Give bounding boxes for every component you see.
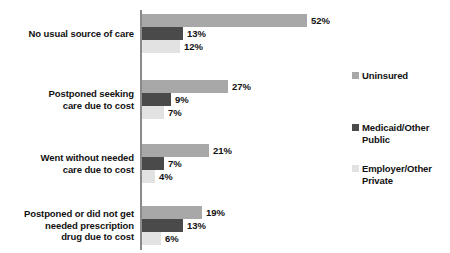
category-label-line: No usual source of care (0, 28, 134, 40)
category-label: Postponed or did not getneeded prescript… (0, 208, 134, 243)
legend-label: Medicaid/Other Public (362, 122, 450, 145)
category-label: Went without neededcare due to cost (0, 152, 134, 175)
legend-item[interactable]: Medicaid/Other Public (352, 122, 450, 145)
bar[interactable] (142, 106, 164, 119)
category-label-line: Postponed or did not get (0, 208, 134, 220)
bar[interactable] (142, 14, 307, 27)
bar-value-label: 19% (206, 207, 225, 219)
category-label-line: Postponed seeking (0, 88, 134, 100)
category-label-line: care due to cost (0, 164, 134, 176)
category-label-line: needed prescription (0, 220, 134, 232)
bar-value-label: 27% (232, 81, 251, 93)
legend-item[interactable]: Uninsured (352, 70, 450, 82)
chart-legend: UninsuredMedicaid/Other PublicEmployer/O… (352, 0, 450, 253)
legend-label: Uninsured (362, 70, 408, 82)
plot-area: No usual source of care52%13%12%Postpone… (0, 0, 340, 253)
category-label: Postponed seekingcare due to cost (0, 88, 134, 111)
bar-value-label: 12% (184, 41, 203, 53)
legend-label: Employer/Other Private (362, 163, 450, 186)
bar[interactable] (142, 232, 161, 245)
bar[interactable] (142, 40, 180, 53)
bar[interactable] (142, 219, 183, 232)
bar-chart: No usual source of care52%13%12%Postpone… (0, 0, 450, 253)
bar-value-label: 7% (168, 158, 182, 170)
category-label: No usual source of care (0, 28, 134, 40)
bar-value-label: 7% (168, 107, 182, 119)
bar-value-label: 9% (175, 94, 189, 106)
legend-swatch-icon (352, 72, 359, 79)
category-label-line: drug due to cost (0, 231, 134, 243)
bar-value-label: 52% (311, 15, 330, 27)
bar[interactable] (142, 80, 228, 93)
bar[interactable] (142, 206, 202, 219)
category-label-line: Went without needed (0, 152, 134, 164)
legend-swatch-icon (352, 165, 359, 172)
bar-value-label: 21% (213, 145, 232, 157)
bar[interactable] (142, 93, 171, 106)
bar[interactable] (142, 27, 183, 40)
category-label-line: care due to cost (0, 100, 134, 112)
bar-value-label: 4% (159, 171, 173, 183)
legend-item[interactable]: Employer/Other Private (352, 163, 450, 186)
legend-swatch-icon (352, 124, 359, 131)
bar-value-label: 13% (187, 28, 206, 40)
bar[interactable] (142, 144, 209, 157)
bar-value-label: 13% (187, 220, 206, 232)
bar[interactable] (142, 157, 164, 170)
bar[interactable] (142, 170, 155, 183)
bar-value-label: 6% (165, 233, 179, 245)
